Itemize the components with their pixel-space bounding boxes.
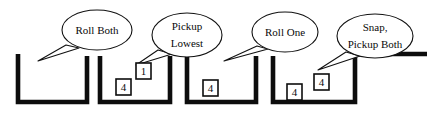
callout-roll-one[interactable]: Roll One (224, 12, 318, 61)
callout-label-1: Roll Both (75, 24, 119, 36)
duration-label-5: 4 (314, 74, 329, 90)
duration-label-2: 1 (136, 63, 151, 79)
duration-label-3: 4 (203, 80, 218, 96)
callout-pickup-lowest[interactable]: Pickup Lowest (136, 13, 222, 65)
callout-label-3: Roll One (265, 26, 305, 38)
callout-tail-1 (38, 45, 79, 61)
diagram-canvas: Roll Both Pickup Lowest Roll One Snap, P… (0, 0, 443, 119)
duration-value-4: 4 (292, 86, 298, 98)
callout-roll-both[interactable]: Roll Both (38, 10, 132, 61)
timing-diagram: Roll Both Pickup Lowest Roll One Snap, P… (0, 0, 443, 119)
duration-value-3: 4 (208, 82, 214, 94)
duration-label-1: 4 (116, 79, 131, 95)
callout-tail-3 (224, 46, 268, 61)
duration-value-2: 1 (141, 65, 147, 77)
callout-label-4-line-2: Pickup Both (348, 38, 403, 50)
duration-value-1: 4 (121, 81, 127, 93)
callout-snap-pickup-both[interactable]: Snap, Pickup Both (318, 14, 413, 70)
duration-label-4: 4 (287, 84, 302, 100)
callout-label-2-line-2: Lowest (171, 37, 203, 49)
callout-label-2-line-1: Pickup (172, 20, 203, 32)
duration-value-5: 4 (319, 76, 325, 88)
callout-label-4-line-1: Snap, (363, 21, 388, 33)
waveform-path (18, 54, 427, 102)
